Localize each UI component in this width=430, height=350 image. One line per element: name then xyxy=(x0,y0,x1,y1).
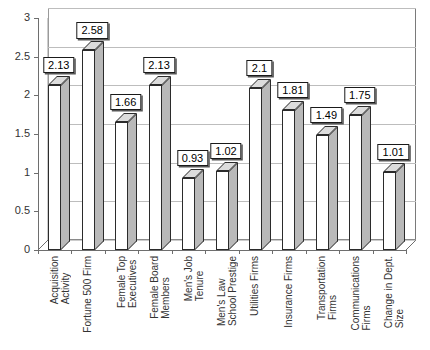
x-axis-tick xyxy=(105,250,106,254)
bar-front-face xyxy=(282,110,295,250)
data-label: 2.58 xyxy=(76,22,107,38)
plot-area: 2.132.581.662.130.931.022.11.811.491.751… xyxy=(38,18,406,250)
x-axis-category-label: Female Top Executives xyxy=(116,256,138,308)
bar-side-face xyxy=(195,169,204,250)
x-axis-tick xyxy=(71,250,72,254)
data-label: 2.13 xyxy=(43,57,74,73)
bar[interactable] xyxy=(349,115,362,250)
bar[interactable] xyxy=(249,88,262,250)
x-axis-tick xyxy=(239,250,240,254)
bar-front-face xyxy=(82,50,95,250)
x-axis-tick xyxy=(406,250,407,254)
bar-front-face xyxy=(216,171,229,250)
bar[interactable] xyxy=(149,85,162,250)
y-axis-tick xyxy=(34,57,38,58)
bar-front-face xyxy=(115,122,128,250)
bar-side-face xyxy=(229,162,238,250)
bar-side-face xyxy=(95,41,104,250)
data-label: 1.49 xyxy=(311,107,342,123)
bar-side-face xyxy=(295,101,304,250)
bar-side-face xyxy=(61,76,70,250)
data-label: 2.1 xyxy=(247,60,272,76)
data-label: 1.75 xyxy=(344,87,375,103)
data-label: 0.93 xyxy=(177,150,208,166)
data-label: 2.13 xyxy=(143,57,174,73)
y-axis-tick-label: 2 xyxy=(0,89,30,100)
x-axis-category-label: Change in Dept. Size xyxy=(383,256,405,328)
bar[interactable] xyxy=(115,122,128,250)
bar-front-face xyxy=(383,172,396,250)
bar-front-face xyxy=(316,135,329,250)
x-axis-category-label: Insurance Firms xyxy=(283,256,294,328)
bar[interactable] xyxy=(82,50,95,250)
y-axis-tick xyxy=(34,134,38,135)
bar-front-face xyxy=(182,178,195,250)
x-axis-tick xyxy=(172,250,173,254)
x-axis-category-label: Men's Job Tenure xyxy=(183,256,205,301)
x-axis-tick xyxy=(306,250,307,254)
x-axis-category-label: Men's Law School Prestige xyxy=(216,256,238,326)
x-axis xyxy=(38,250,406,251)
x-axis-category-label: Communications Firms xyxy=(350,256,372,330)
x-axis-category-label: Utilities Firms xyxy=(249,256,260,316)
x-axis-category-label: Fortune 500 Firm xyxy=(82,256,93,333)
bar[interactable] xyxy=(316,135,329,250)
bar-side-face xyxy=(329,126,338,250)
bar-side-face xyxy=(396,163,405,250)
x-axis-category-label: Transportation Firms xyxy=(316,256,338,320)
y-axis-tick-label: 0.5 xyxy=(0,205,30,216)
y-axis-tick-label: 0 xyxy=(0,244,30,255)
data-label: 1.02 xyxy=(210,143,241,159)
x-axis-tick xyxy=(138,250,139,254)
bar-side-face xyxy=(262,79,271,250)
x-axis-category-label: Female Board Members xyxy=(149,256,171,319)
bar-front-face xyxy=(149,85,162,250)
bar[interactable] xyxy=(216,171,229,250)
y-axis-tick xyxy=(34,18,38,19)
y-axis-tick-label: 1 xyxy=(0,167,30,178)
bar[interactable] xyxy=(383,172,396,250)
x-axis-category-label: Acquisition Activity xyxy=(49,256,71,304)
bar-side-face xyxy=(362,106,371,250)
bar-side-face xyxy=(128,113,137,250)
x-axis-tick xyxy=(339,250,340,254)
bar[interactable] xyxy=(282,110,295,250)
gridline xyxy=(48,8,416,9)
x-axis-tick xyxy=(373,250,374,254)
bar-front-face xyxy=(48,85,61,250)
x-axis-tick xyxy=(272,250,273,254)
y-axis-tick-label: 1.5 xyxy=(0,128,30,139)
data-label: 1.66 xyxy=(110,94,141,110)
y-axis xyxy=(38,18,39,250)
y-axis-tick xyxy=(34,95,38,96)
y-axis-tick xyxy=(34,211,38,212)
bar-side-face xyxy=(162,76,171,250)
y-axis-tick-label: 2.5 xyxy=(0,51,30,62)
bar[interactable] xyxy=(48,85,61,250)
y-axis-tick-label: 3 xyxy=(0,12,30,23)
bar-chart: 00.511.522.53 2.132.581.662.130.931.022.… xyxy=(0,0,430,350)
y-axis-tick xyxy=(34,173,38,174)
data-label: 1.01 xyxy=(378,144,409,160)
bar-front-face xyxy=(249,88,262,250)
bar-front-face xyxy=(349,115,362,250)
data-label: 1.81 xyxy=(277,82,308,98)
bar[interactable] xyxy=(182,178,195,250)
x-axis-tick xyxy=(205,250,206,254)
x-axis-tick xyxy=(38,250,39,254)
